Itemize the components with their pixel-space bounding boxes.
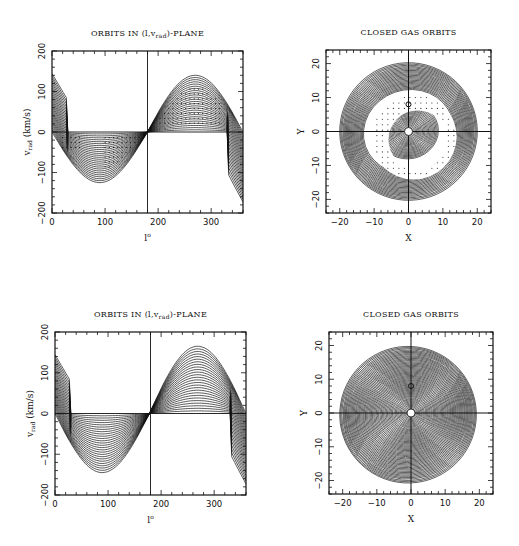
data-point [404, 108, 405, 109]
data-point [198, 93, 199, 94]
y-tick-label: −20 [314, 472, 324, 490]
center-marker [405, 128, 413, 136]
data-point [382, 157, 383, 158]
y-axis-label: Y [299, 409, 309, 417]
y-tick-label: 0 [314, 410, 324, 415]
data-point [382, 146, 383, 147]
y-tick-label: 100 [40, 365, 50, 381]
data-point [437, 108, 438, 109]
data-point [382, 113, 383, 114]
data-point [448, 119, 449, 120]
data-point [437, 162, 438, 163]
data-point [442, 108, 443, 109]
data-point [376, 119, 377, 120]
plot-area [52, 51, 243, 213]
panel-top-left: ORBITS IN (l,vrad)-PLANE0100200300−200−1… [22, 29, 243, 243]
data-point [448, 135, 449, 136]
x-axis-label: lo [144, 231, 151, 243]
data-point [382, 119, 383, 120]
gap-ring [371, 94, 457, 180]
data-point [393, 119, 394, 120]
data-point [404, 97, 405, 98]
data-point [181, 122, 182, 123]
plot-area [315, 321, 502, 508]
data-point [448, 157, 449, 158]
plot-area [315, 38, 503, 226]
data-point [426, 102, 427, 103]
data-point [382, 135, 383, 136]
x-tick-label: 300 [206, 499, 222, 509]
data-point [376, 124, 377, 125]
y-tick-label: 20 [314, 340, 324, 351]
data-point [420, 97, 421, 98]
data-point [415, 173, 416, 174]
x-tick-label: 10 [437, 217, 448, 227]
chart-title: CLOSED GAS ORBITS [361, 28, 457, 37]
data-point [376, 140, 377, 141]
data-point [194, 93, 195, 94]
x-tick-label: −20 [334, 498, 352, 508]
x-tick-label: 300 [203, 217, 219, 227]
data-point [387, 151, 388, 152]
x-tick-label: 200 [153, 499, 169, 509]
data-point [404, 102, 405, 103]
data-point [404, 168, 405, 169]
data-point [420, 173, 421, 174]
data-point [376, 146, 377, 147]
center-marker [407, 409, 415, 417]
data-point [448, 140, 449, 141]
data-point [376, 151, 377, 152]
y-tick-label: 0 [37, 129, 47, 134]
plot-area [55, 332, 246, 495]
data-point [420, 108, 421, 109]
x-axis-label: X [408, 514, 415, 524]
data-point [387, 108, 388, 109]
x-tick-label: 0 [408, 498, 413, 508]
data-point [189, 118, 190, 119]
data-point [104, 152, 105, 153]
figure: ORBITS IN (l,vrad)-PLANE0100200300−200−1… [0, 0, 519, 546]
data-point [387, 157, 388, 158]
data-point [202, 118, 203, 119]
chart-title: ORBITS IN (l,vrad)-PLANE [91, 29, 204, 39]
y-tick-label: −100 [40, 443, 50, 466]
data-point [437, 168, 438, 169]
data-point [382, 124, 383, 125]
x-tick-label: 10 [440, 498, 451, 508]
x-tick-label: −20 [331, 217, 349, 227]
x-tick-label: −10 [365, 217, 383, 227]
panel-bottom-right: CLOSED GAS ORBITS−20−1001020−20−1001020X… [299, 310, 501, 524]
data-point [376, 135, 377, 136]
data-point [442, 119, 443, 120]
data-point [420, 102, 421, 103]
data-point [442, 113, 443, 114]
data-point [426, 108, 427, 109]
data-point [426, 173, 427, 174]
data-point [415, 102, 416, 103]
data-point [206, 122, 207, 123]
y-tick-label: −200 [37, 201, 47, 224]
data-point [453, 135, 454, 136]
panel-bottom-left: ORBITS IN (l,vrad)-PLANE0100200300−200−1… [25, 310, 246, 525]
data-point [376, 130, 377, 131]
y-tick-label: 100 [37, 83, 47, 99]
data-point [448, 151, 449, 152]
data-point [437, 113, 438, 114]
data-point [387, 113, 388, 114]
y-tick-label: −10 [314, 438, 324, 456]
data-point [387, 168, 388, 169]
data-point [104, 142, 105, 143]
y-tick-label: 0 [40, 411, 50, 416]
x-tick-label: 100 [100, 499, 116, 509]
y-tick-label: 20 [311, 58, 321, 69]
x-tick-label: −10 [368, 498, 386, 508]
data-point [453, 140, 454, 141]
data-point [387, 119, 388, 120]
data-point [398, 108, 399, 109]
data-point [387, 130, 388, 131]
data-point [448, 146, 449, 147]
data-point [453, 146, 454, 147]
data-point [409, 97, 410, 98]
data-point [398, 113, 399, 114]
x-axis-label: X [405, 233, 412, 243]
